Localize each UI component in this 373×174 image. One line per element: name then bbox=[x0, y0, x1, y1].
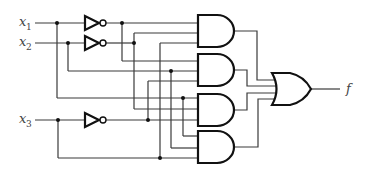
and-gate-1 bbox=[198, 15, 234, 47]
logic-circuit-diagram: x 1 x 2 x 3 bbox=[0, 0, 373, 174]
or-gate bbox=[272, 73, 311, 105]
input-label-x3: x 3 bbox=[19, 111, 32, 129]
svg-text:3: 3 bbox=[26, 119, 32, 129]
junctions bbox=[55, 21, 185, 160]
svg-text:1: 1 bbox=[26, 22, 32, 32]
svg-text:2: 2 bbox=[26, 42, 32, 52]
and-gate-4 bbox=[198, 131, 234, 163]
not-gate-x1 bbox=[85, 16, 106, 30]
output-label-f: f bbox=[345, 81, 353, 96]
not-gate-x3 bbox=[85, 113, 106, 127]
and-gate-2 bbox=[198, 54, 234, 86]
input-label-x1: x 1 bbox=[19, 14, 32, 32]
input-label-x2: x 2 bbox=[19, 34, 32, 52]
not-gate-x2 bbox=[85, 36, 106, 50]
and-gate-3 bbox=[198, 94, 234, 126]
